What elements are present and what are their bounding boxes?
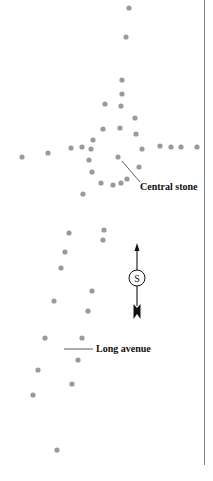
stone-marker [30,392,35,397]
standing-stones [19,5,199,452]
stone-marker [42,335,47,340]
stone-marker [45,150,50,155]
stone-marker [79,144,84,149]
stone-marker [98,180,103,185]
stone-marker [19,154,24,159]
stone-marker [115,154,120,159]
stone-marker [102,101,107,106]
stone-marker [69,381,74,386]
stone-marker [157,143,162,148]
stone-marker [136,164,141,169]
stone-marker [117,125,122,130]
stone-marker [35,367,40,372]
stone-marker [90,137,95,142]
stone-marker [58,265,63,270]
stone-marker [80,191,85,196]
stone-marker [62,249,67,254]
central-stone-label: Central stone [140,181,198,192]
stone-marker [89,169,94,174]
stone-marker [100,237,105,242]
stone-marker [168,144,173,149]
stone-marker [66,230,71,235]
stone-marker [79,335,84,340]
stone-marker [54,447,59,452]
stone-marker [123,34,128,39]
stone-marker [85,308,90,313]
stone-marker [194,144,199,149]
compass-arrow-icon: S [129,243,145,319]
stone-marker [118,103,123,108]
stone-marker [119,77,124,82]
stone-marker [118,180,123,185]
stone-marker [86,157,91,162]
compass-letter: S [134,273,140,284]
long-avenue-label: Long avenue [96,343,151,354]
stone-marker [110,182,115,187]
stone-marker [68,145,73,150]
stone-marker [75,357,80,362]
stone-marker [89,288,94,293]
stone-marker [139,146,144,151]
stone-marker [119,91,124,96]
stone-marker [178,144,183,149]
stone-circle-diagram: Central stone Long avenue S [0,0,213,481]
stone-marker [132,115,137,120]
stone-marker [100,126,105,131]
stone-marker [51,298,56,303]
stone-marker [124,176,129,181]
stone-marker [88,146,93,151]
stone-marker [101,227,106,232]
stone-marker [126,5,131,10]
stone-marker [133,131,138,136]
